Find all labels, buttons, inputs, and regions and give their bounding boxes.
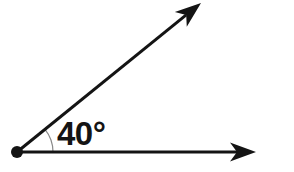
vertex-point [11, 146, 23, 158]
angle-diagram-canvas: 40° [0, 0, 294, 172]
angle-measure-label: 40° [57, 115, 105, 152]
angle-diagram-figure: 40° [0, 0, 294, 172]
figure-background [0, 0, 294, 172]
